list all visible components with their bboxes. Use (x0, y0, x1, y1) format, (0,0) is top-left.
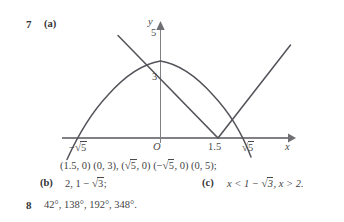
y-tick-label-3: 3 (152, 71, 157, 82)
radical-sqrt5-a2: √5 (163, 159, 175, 171)
answer-b-seg2: ; (104, 178, 107, 189)
part-label-b: (b) (40, 177, 53, 188)
radical-sqrt3-c: √3 (262, 177, 274, 189)
y-tick-label-5: 5 (151, 27, 156, 38)
question-number-8: 8 (26, 199, 32, 211)
answer-c-seg2: , x > 2. (273, 178, 303, 189)
answer-a-seg1: (1.5, 0) (0, 3), ( (60, 160, 125, 171)
answer-line-8: 42°, 138°, 192°, 348°. (44, 199, 137, 210)
origin-label: O (153, 141, 161, 152)
x-tick-label-neg-sqrt5: −√5 (69, 141, 87, 153)
x-axis-label: x (285, 141, 290, 152)
modulus-v-line (118, 36, 291, 139)
part-label-a: (a) (44, 18, 56, 29)
radical-sqrt3-b: √3 (92, 177, 104, 189)
y-axis (156, 21, 164, 143)
answer-line-c: x < 1 − √3, x > 2. (227, 177, 304, 189)
answer-a-seg2: , 0) (− (137, 160, 163, 171)
answer-line-b: 2, 1 − √3; (65, 177, 107, 189)
y-axis-label: y (148, 16, 153, 27)
answer-a-seg3: , 0) (0, 5); (174, 160, 216, 171)
part-label-c: (c) (202, 177, 214, 188)
radical-sqrt5: √5 (242, 141, 254, 153)
answer-b-seg1: 2, 1 − (65, 178, 92, 189)
x-tick-label-sqrt5: √5 (242, 141, 254, 153)
answer-line-a: (1.5, 0) (0, 3), (√5, 0) (−√5, 0) (0, 5)… (60, 159, 217, 171)
radical-sqrt5-a1: √5 (125, 159, 137, 171)
x-tick-label-1point5: 1.5 (208, 141, 221, 152)
answer-c-seg1: x < 1 − (227, 178, 262, 189)
radical-neg-sqrt5: √5 (75, 141, 87, 153)
question-number-7: 7 (26, 18, 32, 30)
x-axis (62, 134, 296, 143)
